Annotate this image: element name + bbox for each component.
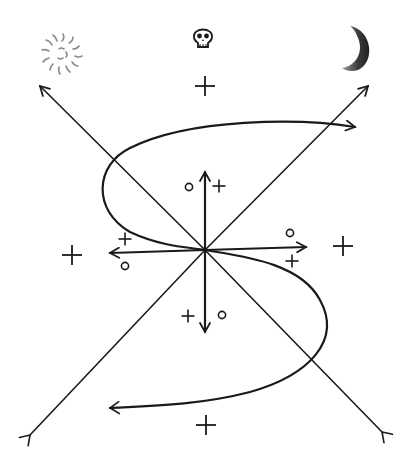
diagonal-se-tail <box>205 250 382 432</box>
sun-icon <box>42 34 82 74</box>
circle-mark <box>218 311 225 318</box>
diagonal-ne-arrow <box>205 86 368 250</box>
moon-icon <box>342 26 369 71</box>
axis-right-arrow <box>205 247 306 250</box>
plus-mark <box>62 245 82 265</box>
plus-mark <box>195 76 215 96</box>
skull-icon <box>194 30 212 48</box>
diagonal-nw-arrow <box>40 86 205 250</box>
circle-mark <box>121 262 128 269</box>
plus-mark <box>119 233 132 246</box>
plus-mark <box>196 415 216 435</box>
axis-left-arrow <box>110 250 205 253</box>
plus-mark <box>213 180 226 193</box>
circle-mark <box>185 183 192 190</box>
plus-mark <box>286 255 299 268</box>
plus-mark <box>333 236 353 256</box>
axes-group <box>30 86 382 435</box>
plus-mark <box>182 310 195 323</box>
marks-group <box>62 76 353 435</box>
diagram-canvas <box>0 0 407 475</box>
circle-mark <box>286 229 293 236</box>
